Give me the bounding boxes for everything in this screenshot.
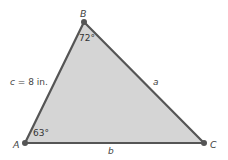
vertex-a-label: A (13, 140, 20, 150)
vertex-a-dot (22, 140, 28, 146)
vertex-b-dot (81, 19, 87, 25)
side-b-label: b (108, 147, 114, 156)
vertex-c-dot (201, 140, 207, 146)
triangle-abc (25, 22, 204, 143)
angle-b-label: 72° (79, 34, 95, 43)
side-c-value: = 8 in. (15, 77, 48, 87)
side-a-label: a (153, 78, 159, 87)
angle-a-label: 63° (33, 129, 49, 138)
vertex-c-label: C (210, 140, 217, 150)
vertex-b-label: B (80, 9, 87, 19)
side-c-label: c = 8 in. (10, 78, 48, 87)
